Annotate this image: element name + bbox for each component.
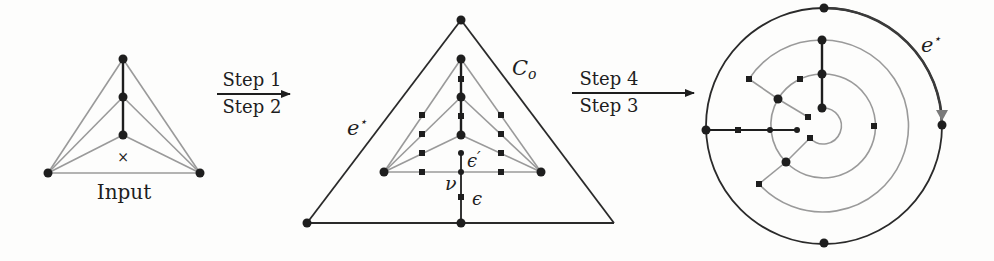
subdivision-square (498, 112, 504, 118)
augmented-graph: Co e⋆ ν ϵ′ ϵ (303, 16, 615, 228)
vertex-dot (537, 168, 546, 177)
vertex-dot (303, 219, 312, 228)
vertex-dot (44, 169, 53, 178)
vertex-dot (818, 36, 827, 45)
vertex-dot (457, 131, 466, 140)
subdivision-square (498, 150, 504, 156)
subdivision-square (458, 113, 464, 119)
subdivision-square (458, 194, 464, 200)
step-1-label: Step 1 (223, 69, 282, 90)
edge-e-star-label: e⋆ (921, 31, 941, 57)
step-2-label: Step 2 (223, 96, 282, 117)
vertex-dot-small (458, 150, 464, 156)
edge-epsilon-prime-label: ϵ′ (467, 148, 481, 171)
subdivision-square (419, 169, 425, 175)
subdivision-square (419, 150, 425, 156)
vertex-dot (457, 16, 466, 25)
diagram-figure: × Input Step 1 Step 2 (0, 0, 994, 261)
vertex-dot (457, 55, 466, 64)
subdivision-square (805, 114, 811, 120)
vertex-nu-dot (458, 169, 464, 175)
vertex-dot-small (767, 127, 773, 133)
subdivision-square (419, 112, 425, 118)
circular-embedding: e⋆ (702, 4, 949, 248)
vertex-dot (818, 104, 827, 113)
vertex-dot (119, 55, 128, 64)
input-graph: × Input (44, 55, 205, 205)
step-3-label: Step 3 (580, 95, 639, 116)
step-4-label: Step 4 (580, 68, 639, 89)
subdivision-square (756, 181, 762, 187)
subdivision-square (458, 76, 464, 82)
vertex-dot (774, 95, 783, 104)
direction-arrowhead-icon (936, 110, 948, 121)
subdivision-square (498, 169, 504, 175)
subdivision-square (735, 127, 741, 133)
vertex-dot (119, 93, 128, 102)
subdivision-square (419, 131, 425, 137)
input-caption: Input (97, 180, 152, 204)
vertex-dot (119, 131, 128, 140)
vertex-dot (820, 4, 829, 13)
vertex-nu-label: ν (445, 172, 457, 194)
outer-edge-e-star-label: e⋆ (347, 114, 367, 140)
vertex-dot (196, 169, 205, 178)
vertex-dot (938, 121, 947, 130)
subdivision-square (746, 76, 752, 82)
step-arrow-2: Step 4 Step 3 (572, 68, 694, 116)
subdivision-square (797, 76, 803, 82)
step-arrow-1: Step 1 Step 2 (217, 69, 290, 117)
vertex-dot (702, 126, 711, 135)
outer-cycle-label: Co (512, 56, 537, 82)
subdivision-square (871, 123, 877, 129)
face-marker-x-icon: × (117, 149, 129, 165)
vertex-dot-small (794, 127, 800, 133)
vertex-dot (457, 93, 466, 102)
subdivision-square (498, 131, 504, 137)
vertex-dot (782, 158, 791, 167)
vertex-dot (818, 70, 827, 79)
vertex-dot (820, 239, 829, 248)
vertex-dot (457, 219, 466, 228)
vertex-dot (380, 168, 389, 177)
subdivision-square (807, 135, 813, 141)
edge-epsilon-label: ϵ (472, 188, 482, 209)
